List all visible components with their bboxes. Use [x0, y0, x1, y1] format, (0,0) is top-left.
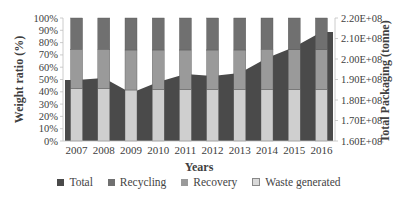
stacked-bar-area-chart: 2007200820092010201120122013201420152016… — [0, 0, 398, 202]
y2-tick-label: 1.80E+08 — [341, 95, 382, 106]
bar-segment-recovery — [179, 50, 191, 89]
bar-segment-waste-generated — [152, 89, 164, 141]
bar-segment-recovery — [288, 49, 300, 89]
y-tick-label: 50% — [39, 74, 59, 85]
bar-segment-waste-generated — [125, 90, 137, 141]
legend-item-waste-generated: Waste generated — [252, 176, 340, 188]
y-tick-label: 100% — [34, 13, 59, 24]
x-tick-label: 2016 — [310, 144, 333, 156]
bar-segment-recycling — [125, 18, 137, 50]
y-tick-label: 10% — [39, 123, 59, 134]
bar-segment-waste-generated — [71, 89, 83, 141]
y2-tick-label: 2.20E+08 — [341, 13, 382, 24]
bar-segment-waste-generated — [288, 89, 300, 141]
bar-segment-waste-generated — [179, 89, 191, 141]
bar-segment-recycling — [179, 18, 191, 50]
y2-tick-label: 1.60E+08 — [341, 136, 382, 147]
y-axis-title: Weight ratio (%) — [12, 36, 26, 123]
bar-segment-recovery — [315, 49, 327, 89]
chart-container: 2007200820092010201120122013201420152016… — [0, 0, 398, 202]
y2-axis-title: Total Packaging (tonne) — [378, 20, 392, 142]
x-tick-label: 2009 — [120, 144, 143, 156]
legend-swatch-waste-icon — [252, 178, 260, 186]
x-tick-label: 2011 — [175, 144, 197, 156]
y-tick-label: 90% — [39, 25, 59, 36]
bar-segment-recovery — [125, 50, 137, 90]
bar-segment-recycling — [234, 18, 246, 50]
bar-segment-recovery — [207, 50, 219, 89]
y-tick-label: 60% — [39, 62, 59, 73]
bar-segment-recycling — [207, 18, 219, 50]
y-tick-label: 30% — [39, 99, 59, 110]
bar-segment-recycling — [288, 18, 300, 49]
bar-segment-waste-generated — [234, 89, 246, 141]
bar-segment-waste-generated — [261, 89, 273, 141]
bar-segment-recovery — [234, 50, 246, 89]
y2-tick-label: 2.10E+08 — [341, 33, 382, 44]
y2-tick-label: 2.00E+08 — [341, 54, 382, 65]
legend-swatch-recovery-icon — [181, 179, 188, 186]
y-tick-label: 80% — [39, 37, 59, 48]
x-axis-title: Years — [185, 160, 214, 174]
bar-segment-recovery — [98, 49, 110, 88]
bar-segment-waste-generated — [98, 89, 110, 141]
legend: Total Recycling Recovery Waste generated — [0, 176, 398, 188]
legend-item-recovery: Recovery — [181, 176, 237, 188]
legend-swatch-recycling-icon — [108, 179, 115, 186]
x-tick-label: 2014 — [256, 144, 279, 156]
legend-item-recycling: Recycling — [108, 176, 167, 188]
bar-segment-recycling — [261, 18, 273, 49]
x-tick-label: 2007 — [66, 144, 89, 156]
y2-tick-label: 1.70E+08 — [341, 115, 382, 126]
y-tick-label: 0% — [44, 136, 58, 147]
bar-segment-recovery — [152, 50, 164, 89]
bar-segment-waste-generated — [207, 89, 219, 141]
x-tick-label: 2013 — [229, 144, 252, 156]
x-tick-label: 2015 — [283, 144, 306, 156]
bar-segment-recycling — [71, 18, 83, 49]
bar-segment-recovery — [71, 49, 83, 88]
y-tick-label: 40% — [39, 86, 59, 97]
legend-swatch-total-icon — [57, 179, 64, 186]
bar-segment-recycling — [152, 18, 164, 50]
bar-segment-recycling — [315, 18, 327, 49]
bar-segment-recycling — [98, 18, 110, 49]
y-tick-label: 20% — [39, 111, 59, 122]
y-tick-label: 70% — [39, 49, 59, 60]
bar-segment-waste-generated — [315, 89, 327, 141]
bar-segment-recovery — [261, 49, 273, 89]
x-tick-label: 2008 — [93, 144, 116, 156]
legend-item-total: Total — [57, 176, 92, 188]
x-tick-label: 2012 — [202, 144, 224, 156]
y2-tick-label: 1.90E+08 — [341, 74, 382, 85]
x-tick-label: 2010 — [147, 144, 170, 156]
